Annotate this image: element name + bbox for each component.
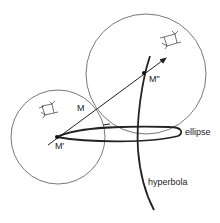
label-M-double-prime: M" (149, 75, 160, 84)
label-M: M (77, 104, 85, 113)
point-M-double-prime (142, 71, 146, 75)
tick-mark (103, 124, 110, 125)
direction-arrow (48, 58, 166, 145)
ellipse-curve (57, 127, 181, 142)
diagram-svg (0, 0, 220, 223)
label-M-prime: M' (55, 142, 64, 151)
point-M-prime (55, 135, 59, 139)
left-patch-icon (39, 101, 58, 118)
label-hyperbola: hyperbola (148, 178, 188, 187)
right-circle (86, 14, 206, 134)
diagram-canvas: M M' M" ellipse hyperbola (0, 0, 220, 223)
label-ellipse: ellipse (185, 128, 211, 137)
right-patch-icon (160, 31, 181, 49)
